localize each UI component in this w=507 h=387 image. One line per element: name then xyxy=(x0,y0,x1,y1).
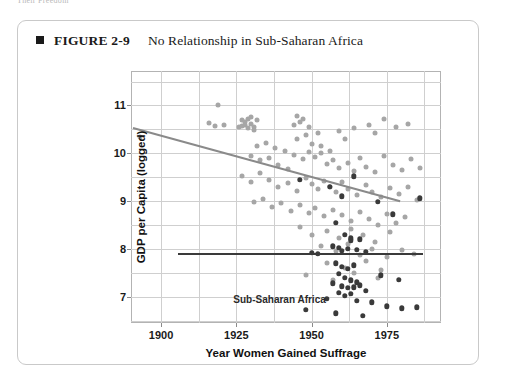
data-point xyxy=(249,179,254,184)
trend-line-sub-saharan-africa xyxy=(178,253,423,255)
y-axis-tick-mark xyxy=(127,249,131,250)
data-point xyxy=(384,255,389,260)
figure-card: FIGURE 2-9 No Relationship in Sub-Sahara… xyxy=(17,20,479,365)
x-axis-tick-label: 1950 xyxy=(299,329,323,341)
data-point xyxy=(408,156,413,161)
data-point xyxy=(318,151,323,156)
data-point xyxy=(384,212,389,217)
gridline-vertical xyxy=(199,71,200,323)
data-point xyxy=(222,123,227,128)
gridline-horizontal xyxy=(131,129,441,130)
data-point xyxy=(387,230,392,235)
x-axis-tick-mark xyxy=(236,323,237,327)
gridline-horizontal xyxy=(131,105,441,106)
gridline-vertical xyxy=(424,71,425,323)
gridline-vertical xyxy=(236,71,237,323)
data-point xyxy=(297,225,302,230)
data-point xyxy=(393,220,398,225)
data-point xyxy=(348,226,353,231)
y-axis-tick-mark xyxy=(127,105,131,106)
gridline-vertical xyxy=(274,71,275,323)
data-point xyxy=(405,184,410,189)
data-point xyxy=(270,204,275,209)
data-point xyxy=(336,236,341,241)
data-point xyxy=(297,202,302,207)
data-point xyxy=(318,144,323,149)
data-point xyxy=(249,153,254,158)
data-point xyxy=(264,140,269,145)
data-point xyxy=(351,270,356,275)
data-point xyxy=(357,209,362,214)
data-point xyxy=(252,128,257,133)
data-point xyxy=(306,125,311,130)
y-axis-tick-mark xyxy=(127,153,131,154)
data-point xyxy=(273,146,278,151)
data-point xyxy=(249,115,254,120)
data-point xyxy=(267,177,272,182)
data-point xyxy=(336,129,341,134)
data-point xyxy=(366,217,371,222)
plot-frame xyxy=(131,71,441,323)
data-point xyxy=(300,156,305,161)
data-point xyxy=(315,131,320,136)
x-axis-tick-label: 1975 xyxy=(375,329,399,341)
data-point xyxy=(351,126,356,131)
data-point xyxy=(375,222,380,227)
data-point xyxy=(396,192,401,197)
data-point xyxy=(357,156,362,161)
data-point xyxy=(348,219,353,224)
y-axis-tick-mark xyxy=(127,297,131,298)
data-point xyxy=(255,117,260,122)
data-point xyxy=(381,153,386,158)
data-point xyxy=(252,200,257,205)
data-point xyxy=(294,136,299,141)
y-axis-tick-mark xyxy=(127,201,131,202)
data-point xyxy=(369,246,374,251)
data-point xyxy=(327,148,332,153)
data-point xyxy=(399,167,404,172)
gridline-horizontal xyxy=(131,201,441,202)
data-point xyxy=(417,165,422,170)
data-point xyxy=(288,208,293,213)
data-point xyxy=(363,258,368,263)
x-axis-tick-mark xyxy=(312,323,313,327)
y-axis-tick-label: 7 xyxy=(120,291,126,303)
gridline-horizontal xyxy=(131,82,441,83)
y-axis-tick-label: 9 xyxy=(120,195,126,207)
data-point xyxy=(321,214,326,219)
data-point xyxy=(246,126,251,131)
data-point xyxy=(291,153,296,158)
data-point xyxy=(291,122,296,127)
data-point xyxy=(339,213,344,218)
data-point xyxy=(402,215,407,220)
gridline-horizontal xyxy=(131,321,441,322)
data-point xyxy=(399,247,404,252)
data-point xyxy=(312,155,317,160)
data-point xyxy=(300,116,305,121)
data-point xyxy=(363,164,368,169)
data-point xyxy=(309,141,314,146)
figure-number: FIGURE 2-9 xyxy=(54,33,130,49)
data-point xyxy=(393,124,398,129)
y-axis-tick-label: 11 xyxy=(114,99,126,111)
data-point xyxy=(330,158,335,163)
data-point xyxy=(306,150,311,155)
data-point xyxy=(342,136,347,141)
data-point xyxy=(306,211,311,216)
data-point xyxy=(354,193,359,198)
square-bullet-icon xyxy=(36,36,44,44)
data-point xyxy=(363,182,368,187)
gridline-horizontal xyxy=(131,249,441,250)
x-axis-tick-mark xyxy=(387,323,388,327)
x-axis-tick-label: 1900 xyxy=(149,329,173,341)
data-point xyxy=(207,121,212,126)
data-point xyxy=(381,116,386,121)
data-point xyxy=(255,144,260,149)
sub-saharan-africa-annotation: Sub-Saharan Africa xyxy=(233,294,325,305)
data-point xyxy=(333,190,338,195)
data-point xyxy=(366,122,371,127)
y-axis-title: GDP per Capita (logged) xyxy=(135,131,147,264)
data-point xyxy=(387,185,392,190)
data-point xyxy=(276,184,281,189)
gridline-vertical xyxy=(161,71,162,323)
